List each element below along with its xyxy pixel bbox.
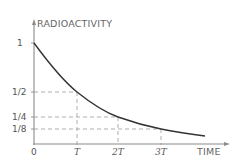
x-tick-label-0: 0: [31, 147, 37, 157]
y-axis-arrow-icon: [32, 19, 36, 25]
y-tick-label-half: 1/2: [12, 87, 26, 97]
decay-chart: RADIOACTIVITY TIME 1 1/2 1/4 1/8 0 T 2T …: [0, 0, 237, 164]
decay-curve: [34, 43, 205, 136]
x-axis-arrow-icon: [224, 142, 230, 146]
y-tick-label-eighth: 1/8: [12, 124, 27, 134]
guide-lines: [34, 92, 161, 145]
y-tick-label-1: 1: [17, 38, 23, 48]
x-tick-label-3T: 3T: [155, 147, 168, 157]
y-tick-label-quarter: 1/4: [12, 112, 27, 122]
x-tick-label-T: T: [74, 147, 81, 157]
y-axis-label: RADIOACTIVITY: [37, 18, 112, 29]
x-axis-label: TIME: [196, 146, 221, 157]
x-tick-label-2T: 2T: [111, 147, 125, 157]
axes: [33, 23, 226, 145]
